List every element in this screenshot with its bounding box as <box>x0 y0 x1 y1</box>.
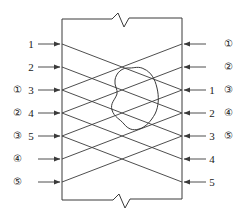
diagram-canvas: ① ② ③ ④ ⑤ 1 2 3 4 5 1 2 3 4 5 ① ② ③ ④ ⑤ <box>0 0 241 222</box>
left-outer-label-5: ③ <box>13 131 22 141</box>
top-break-line <box>62 13 182 27</box>
frame-group <box>62 13 182 208</box>
zigzag-break-top-icon <box>112 13 182 27</box>
right-leads <box>184 44 206 182</box>
right-inner-label-5: 3 <box>209 131 215 142</box>
right-outer-label-3: ③ <box>224 85 233 95</box>
left-outer-label-6: ④ <box>13 154 22 164</box>
right-outer-label-5: ⑤ <box>224 131 233 141</box>
right-inner-label-7: 5 <box>209 177 215 188</box>
bottom-break-line <box>62 194 182 208</box>
right-outer-label-2: ② <box>224 62 233 72</box>
left-outer-label-4: ② <box>13 108 22 118</box>
fault-region-blob <box>112 67 159 129</box>
schematic-drawing <box>0 0 241 222</box>
right-inner-label-3: 1 <box>209 85 215 96</box>
left-inner-label-5: 5 <box>28 131 34 142</box>
crossover-lines <box>62 44 182 182</box>
right-inner-label-4: 2 <box>209 108 215 119</box>
right-inner-label-6: 4 <box>209 154 215 165</box>
left-outer-label-7: ⑤ <box>13 177 22 187</box>
left-leads <box>38 44 60 182</box>
right-outer-label-1: ① <box>224 39 233 49</box>
left-outer-label-3: ① <box>13 85 22 95</box>
left-inner-label-2: 2 <box>28 62 34 73</box>
left-inner-label-1: 1 <box>28 39 34 50</box>
left-inner-label-3: 3 <box>28 85 34 96</box>
left-inner-label-4: 4 <box>28 108 34 119</box>
right-outer-label-4: ④ <box>224 108 233 118</box>
zigzag-break-bottom-icon <box>113 194 182 208</box>
